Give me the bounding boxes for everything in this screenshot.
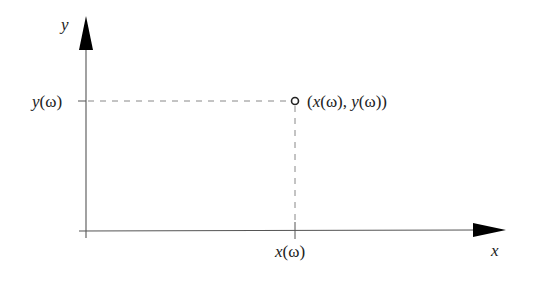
cartesian-diagram: y x y(ω) x(ω) (x(ω), y(ω)) bbox=[0, 0, 536, 284]
x-axis-line bbox=[79, 230, 476, 231]
x-tick-label: x(ω) bbox=[274, 242, 305, 261]
x-axis-arrow-icon bbox=[473, 223, 506, 237]
point-label-x-arg: (ω) bbox=[320, 92, 343, 111]
y-axis-arrow-icon bbox=[79, 16, 93, 50]
y-tick-label: y(ω) bbox=[30, 92, 62, 111]
point-label-y-arg: (ω) bbox=[359, 92, 382, 111]
point-marker-icon bbox=[292, 98, 299, 105]
point-label: (x(ω), y(ω)) bbox=[307, 92, 387, 111]
y-tick-arg: (ω) bbox=[40, 92, 63, 111]
x-axis-label: x bbox=[490, 241, 499, 260]
point-label-y: y bbox=[349, 92, 359, 111]
y-tick-var: y bbox=[30, 92, 40, 111]
y-axis-label: y bbox=[59, 15, 69, 34]
x-tick-arg: (ω) bbox=[283, 242, 306, 261]
point-label-close: ) bbox=[381, 92, 387, 111]
point-label-sep: , bbox=[343, 92, 352, 111]
